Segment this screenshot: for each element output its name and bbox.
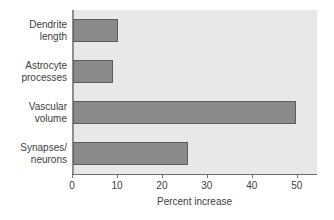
x-tick-mark [162, 174, 163, 178]
bar [73, 60, 113, 83]
x-tick-label: 10 [105, 180, 129, 191]
x-tick-label: 50 [285, 180, 309, 191]
x-tick-mark [117, 174, 118, 178]
category-label: Synapses/ neurons [0, 142, 67, 165]
category-label: Vascular volume [0, 101, 67, 124]
category-label: Dendrite length [0, 19, 67, 42]
x-tick-label: 20 [150, 180, 174, 191]
x-tick-label: 30 [195, 180, 219, 191]
x-tick-mark [297, 174, 298, 178]
bar [73, 19, 118, 42]
x-tick-label: 0 [60, 180, 84, 191]
x-tick-mark [207, 174, 208, 178]
bar-chart-figure: Dendrite lengthAstrocyte processesVascul… [0, 0, 334, 220]
bar [73, 101, 296, 124]
category-label: Astrocyte processes [0, 60, 67, 83]
x-tick-mark [252, 174, 253, 178]
x-tick-mark [72, 174, 73, 178]
x-axis-title: Percent increase [72, 196, 317, 207]
x-axis-line [72, 174, 317, 175]
x-tick-label: 40 [240, 180, 264, 191]
bar [73, 142, 188, 165]
